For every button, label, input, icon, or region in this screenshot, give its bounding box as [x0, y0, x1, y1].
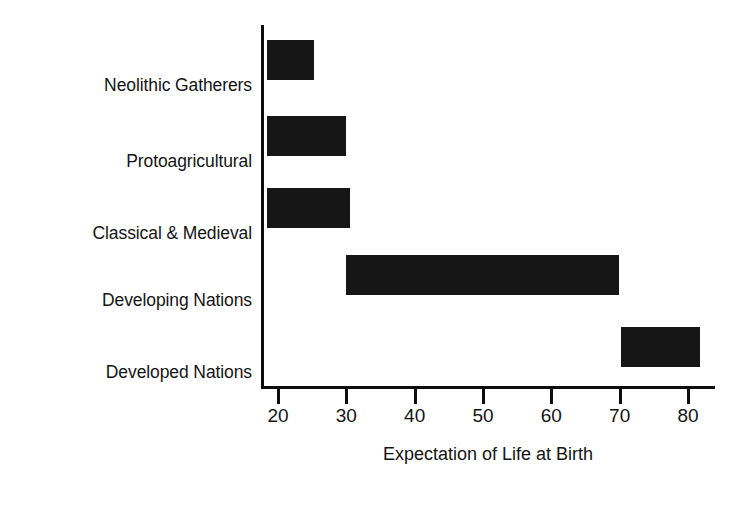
x-tick-label-40: 40 [393, 405, 437, 427]
plot-area [0, 0, 752, 506]
bar-developing-nations [346, 255, 619, 295]
x-tick-70 [619, 389, 622, 404]
x-tick-60 [550, 389, 553, 404]
x-tick-label-70: 70 [598, 405, 642, 427]
x-tick-30 [345, 389, 348, 404]
life-expectancy-bar-chart: Neolithic Gatherers Protoagricultural Cl… [0, 0, 752, 506]
x-axis-title: Expectation of Life at Birth [261, 443, 715, 465]
x-tick-label-50: 50 [461, 405, 505, 427]
bar-classical-medieval [267, 188, 350, 228]
x-tick-label-60: 60 [529, 405, 573, 427]
x-tick-40 [414, 389, 417, 404]
bar-protoagricultural [267, 116, 346, 156]
bar-neolithic-gatherers [267, 40, 314, 80]
x-tick-label-20: 20 [256, 405, 300, 427]
x-tick-80 [687, 389, 690, 404]
x-tick-20 [277, 389, 280, 404]
bar-developed-nations [621, 327, 700, 367]
x-tick-label-30: 30 [324, 405, 368, 427]
x-tick-label-80: 80 [666, 405, 710, 427]
x-tick-50 [482, 389, 485, 404]
